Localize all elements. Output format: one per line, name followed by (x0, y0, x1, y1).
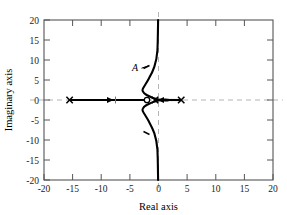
x-tick-label: 20 (268, 184, 278, 194)
x-tick-label: -20 (38, 184, 51, 194)
x-tick-label: -10 (95, 184, 108, 194)
root-locus-plot: -20 -15 -10 -5 0 5 10 15 20 20 15 10 5 0… (0, 0, 287, 215)
zero-marker-circle (144, 97, 149, 102)
x-tick-label: 15 (240, 184, 250, 194)
label-A: A (131, 62, 139, 73)
y-tick-label: 5 (34, 76, 39, 86)
x-tick-label: -15 (66, 184, 79, 194)
x-tick-label: 10 (211, 184, 221, 194)
y-axis-title: Imaginary axis (3, 69, 14, 132)
root-locus-figure: -20 -15 -10 -5 0 5 10 15 20 20 15 10 5 0… (0, 0, 287, 215)
y-tick-label: -10 (26, 136, 39, 146)
x-tick-label: 5 (185, 184, 190, 194)
y-tick-label: 10 (30, 56, 40, 66)
y-tick-label: 0 (34, 96, 39, 106)
x-tick-label: 0 (156, 184, 161, 194)
y-tick-label: 15 (30, 36, 40, 46)
x-axis-title: Real axis (139, 201, 178, 212)
y-tick-label: -5 (31, 116, 39, 126)
x-tick-label: -5 (126, 184, 134, 194)
y-tick-label: 20 (30, 16, 40, 26)
y-tick-label: -20 (26, 176, 39, 186)
y-tick-label: -15 (26, 156, 39, 166)
